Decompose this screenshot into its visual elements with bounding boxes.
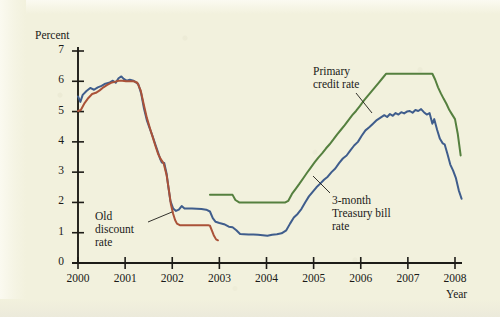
annotation-old-discount-rate-line-3: rate <box>95 236 134 249</box>
annotation-old-discount-rate: Old discount rate <box>95 210 134 249</box>
y-axis-title: Percent <box>35 29 69 42</box>
x-tick-label: 2005 <box>294 272 334 285</box>
y-tick-label: 7 <box>44 43 64 56</box>
x-tick-label: 2002 <box>152 272 192 285</box>
y-tick-label: 1 <box>44 225 64 238</box>
annotation-treasury-bill-rate-line-1: 3-month <box>332 194 391 207</box>
y-tick-label: 4 <box>44 134 64 147</box>
y-tick-label: 3 <box>44 164 64 177</box>
y-tick-label: 6 <box>44 73 64 86</box>
x-tick-label: 2006 <box>341 272 381 285</box>
y-tick-label: 0 <box>44 255 64 268</box>
annotation-primary-credit-rate-line-2: credit rate <box>313 78 359 91</box>
annotation-treasury-bill-rate-line-2: Treasury bill <box>332 207 391 220</box>
annotation-old-discount-rate-line-2: discount <box>95 223 134 236</box>
y-tick-label: 2 <box>44 194 64 207</box>
x-tick-label: 2007 <box>388 272 428 285</box>
chart-series <box>78 74 462 241</box>
leader-line-old-discount-rate <box>148 212 172 222</box>
annotation-primary-credit-rate: Primary credit rate <box>313 65 359 91</box>
x-tick-label: 2001 <box>105 272 145 285</box>
line-chart-plot <box>0 0 500 317</box>
annotation-treasury-bill-rate: 3-month Treasury bill rate <box>332 194 391 233</box>
x-tick-label: 2000 <box>58 272 98 285</box>
figure-root: Percent Year 01234567 200020012002200320… <box>0 0 500 317</box>
leader-line-primary-credit-rate <box>356 93 372 113</box>
series-line-3-month-treasury-bill-rate <box>78 76 462 235</box>
x-tick-label: 2003 <box>199 272 239 285</box>
x-axis-title: Year <box>446 288 467 301</box>
y-tick-label: 5 <box>44 104 64 117</box>
annotation-primary-credit-rate-line-1: Primary <box>313 65 359 78</box>
series-line-primary-credit-rate <box>210 74 461 203</box>
annotation-treasury-bill-rate-line-3: rate <box>332 220 391 233</box>
annotation-old-discount-rate-line-1: Old <box>95 210 134 223</box>
leader-line-treasury-bill-rate <box>313 176 330 193</box>
x-tick-label: 2004 <box>247 272 287 285</box>
x-tick-label: 2008 <box>435 272 475 285</box>
